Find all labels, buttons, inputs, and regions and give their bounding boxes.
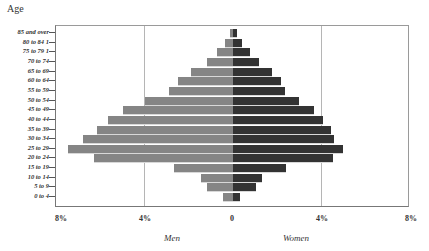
age-group-label: 35 to 39 <box>28 125 49 133</box>
bar-women <box>233 145 343 154</box>
bar-men <box>191 68 233 77</box>
age-group-label: 75 to 79 1 <box>23 47 49 55</box>
bar-men <box>178 77 233 86</box>
bar-women <box>233 126 331 135</box>
bar-women <box>233 87 285 96</box>
age-group-label: 40 to 44 <box>28 115 49 123</box>
bar-women <box>233 29 237 38</box>
age-group-label: 25 to 29 <box>28 144 49 152</box>
age-group-label: 0 to 4 <box>34 192 49 200</box>
age-group-label: 30 to 34 <box>28 134 49 142</box>
bar-men <box>225 39 233 48</box>
bar-men <box>123 106 233 115</box>
bar-women <box>233 68 272 77</box>
bar-men <box>169 87 233 96</box>
bar-women <box>233 193 240 202</box>
age-group-label: 80 to 84 1 <box>23 38 49 46</box>
men-label: Men <box>164 233 180 243</box>
bar-men <box>223 193 233 202</box>
age-group-label: 5 to 9 <box>34 182 49 190</box>
bar-women <box>233 183 256 192</box>
bar-women <box>233 154 333 163</box>
bar-men <box>68 145 233 154</box>
bar-men <box>207 183 233 192</box>
bar-women <box>233 116 323 125</box>
bar-men <box>83 135 233 144</box>
bar-men <box>145 97 233 106</box>
bar-women <box>233 39 242 48</box>
age-group-label: 45 to 49 <box>28 105 49 113</box>
age-group-label: 60 to 64 <box>28 76 49 84</box>
y-axis-title: Age <box>7 3 24 14</box>
bar-men <box>201 174 233 183</box>
bar-men <box>108 116 233 125</box>
bar-men <box>217 48 234 57</box>
bar-women <box>233 48 250 57</box>
bar-women <box>233 106 314 115</box>
age-group-label: 70 to 74 <box>28 57 49 65</box>
age-group-label: 10 to 14 <box>28 173 49 181</box>
bar-women <box>233 58 259 67</box>
bar-men <box>94 154 233 163</box>
age-group-label: 20 to 24 <box>28 153 49 161</box>
age-group-label: 50 to 54 <box>28 96 49 104</box>
bar-men <box>207 58 233 67</box>
x-tick-men-4: 4% <box>139 214 151 223</box>
age-group-label: 55 to 59 <box>28 86 49 94</box>
x-tick-women-8: 8% <box>405 214 417 223</box>
x-tick-zero: 0 <box>230 214 234 223</box>
x-tick-women-4: 4% <box>316 214 328 223</box>
age-group-label: 85 and over <box>18 28 49 36</box>
bar-women <box>233 174 262 183</box>
bar-women <box>233 135 334 144</box>
age-group-label: 15 to 19 <box>28 163 49 171</box>
bar-men <box>97 126 233 135</box>
age-group-label: 65 to 69 <box>28 67 49 75</box>
x-tick-men-8: 8% <box>55 214 67 223</box>
bar-women <box>233 97 299 106</box>
women-label: Women <box>283 233 309 243</box>
bar-men <box>174 164 233 173</box>
plot-area <box>55 25 409 207</box>
bar-women <box>233 164 286 173</box>
bar-women <box>233 77 281 86</box>
